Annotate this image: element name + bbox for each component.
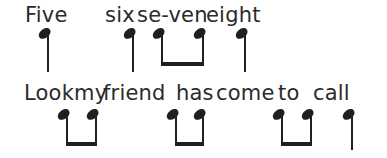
stem	[310, 113, 313, 146]
notehead	[191, 107, 206, 122]
notehead	[84, 107, 99, 122]
beam	[161, 62, 205, 66]
stem	[66, 113, 69, 146]
beam	[175, 142, 205, 146]
lyric-word: eight	[206, 2, 261, 28]
notehead	[121, 26, 136, 41]
lyric-word: friend	[103, 80, 166, 106]
stem	[95, 113, 98, 146]
rhythm-worksheet: Five six se-ven eight Look my friend has…	[0, 0, 387, 158]
lyric-line-2-text: Look my friend has come to call	[0, 0, 1, 1]
lyric-line-1-text: Five six se-ven eight	[0, 0, 1, 1]
notehead	[164, 107, 179, 122]
stem	[132, 32, 135, 72]
lyric-word: Five	[25, 2, 68, 28]
stem	[244, 32, 247, 72]
stem	[202, 32, 205, 66]
notehead	[270, 107, 285, 122]
stem	[175, 113, 178, 146]
lyric-word: has	[176, 80, 214, 106]
lyric-word: six	[105, 2, 135, 28]
lyric-word: to	[278, 80, 299, 106]
notehead	[340, 107, 355, 122]
notehead	[299, 107, 314, 122]
notehead	[233, 26, 248, 41]
stem	[47, 32, 50, 72]
stem	[281, 113, 284, 146]
notehead	[36, 26, 51, 41]
notehead	[191, 26, 206, 41]
notehead	[55, 107, 70, 122]
stem	[202, 113, 205, 146]
stem	[161, 32, 164, 66]
lyric-word: se-ven	[137, 2, 208, 28]
stem	[351, 113, 354, 150]
lyric-word: Look	[24, 80, 74, 106]
beam	[281, 142, 313, 146]
lyric-word: call	[313, 80, 350, 106]
lyric-word: come	[216, 80, 275, 106]
notehead	[150, 26, 165, 41]
beam	[66, 142, 98, 146]
